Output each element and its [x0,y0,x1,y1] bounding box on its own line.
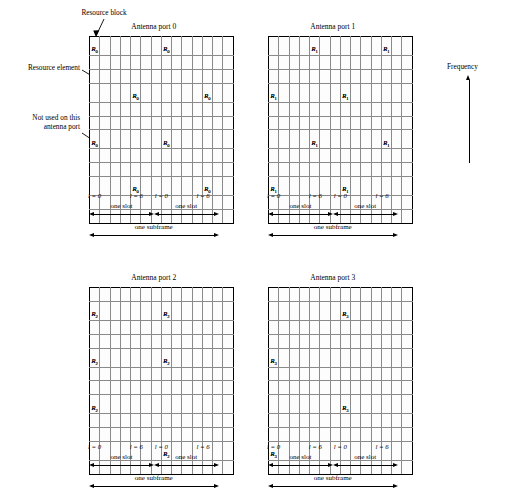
antenna-port-1-subframe-arrowhead-right-icon [393,233,398,237]
reference-signal-cell: R1 [381,130,391,149]
frequency-arrow-shaft [469,80,470,163]
resource-element-cell [340,367,350,381]
resource-element-cell [289,428,299,442]
resource-element-cell [310,414,320,428]
resource-element-cell [381,149,391,163]
resource-element-cell [141,37,151,56]
resource-element-cell [340,334,350,348]
resource-element-cell [151,56,161,70]
resource-element-cell [361,116,371,130]
resource-element-cell [330,395,340,414]
resource-element-cell [182,381,192,395]
resource-element-cell [213,288,223,302]
antenna-port-0-title: Antenna port 0 [89,22,219,31]
grid-row [90,334,234,348]
resource-element-cell [182,428,192,442]
resource-element-cell [192,209,202,223]
resource-element-cell [320,348,330,367]
resource-element-cell [110,177,120,196]
resource-element-cell [310,460,320,474]
resource-element-cell [223,414,233,428]
resource-element-cell [223,320,233,334]
resource-element-cell [330,56,340,70]
resource-element-cell [299,163,309,177]
resource-element-cell [213,428,223,442]
antenna-port-3-subframe-arrow-shaft [272,486,394,487]
grid-row [90,69,234,83]
resource-element-cell [213,163,223,177]
resource-element-cell [392,367,402,381]
reference-signal-cell: R3 [340,301,350,320]
reference-signal-label: R1 [311,46,317,55]
resource-element-cell [120,367,130,381]
antenna-port-1-l0-slot1: l = 0 [267,192,280,199]
resource-element-cell [289,288,299,302]
resource-element-cell [310,320,320,334]
reference-signal-cell: R1 [381,37,391,56]
resource-element-cell [161,116,171,130]
grid-row [90,460,234,474]
grid-row: R2 [90,395,234,414]
antenna-port-0-subframe-label: one subframe [89,223,219,231]
resource-element-cell [151,163,161,177]
resource-element-cell [192,334,202,348]
grid-row [90,428,234,442]
resource-element-cell [392,130,402,149]
resource-element-cell [310,102,320,116]
resource-element-cell [100,334,110,348]
resource-element-cell [223,83,233,102]
resource-element-cell [330,320,340,334]
resource-element-cell [131,56,141,70]
resource-element-cell [289,414,299,428]
resource-element-cell [202,288,212,302]
resource-element-cell [392,149,402,163]
resource-element-cell [289,37,299,56]
resource-element-cell [141,130,151,149]
resource-element-cell [100,209,110,223]
resource-element-cell [269,414,279,428]
unused-cell [340,130,350,149]
resource-element-cell [182,163,192,177]
resource-element-cell [279,428,289,442]
resource-element-cell [371,381,381,395]
resource-element-cell [161,163,171,177]
resource-element-cell [161,334,171,348]
resource-element-cell [192,395,202,414]
resource-element-cell [402,209,412,223]
resource-element-cell [371,209,381,223]
resource-element-cell [299,56,309,70]
resource-element-cell [110,414,120,428]
resource-element-cell [320,102,330,116]
resource-element-cell [182,460,192,474]
resource-element-cell [361,367,371,381]
unused-cell [269,37,279,56]
resource-element-cell [161,320,171,334]
resource-element-cell [120,37,130,56]
resource-element-cell [279,460,289,474]
resource-element-cell [141,414,151,428]
resource-element-cell [120,288,130,302]
resource-element-cell [202,69,212,83]
resource-element-cell [141,56,151,70]
antenna-port-0-subframe-arrow-shaft [93,235,215,236]
resource-element-cell [161,414,171,428]
resource-element-cell [172,428,182,442]
resource-element-cell [90,414,100,428]
resource-element-cell [320,428,330,442]
resource-element-cell [361,83,371,102]
resource-element-cell [279,301,289,320]
resource-element-cell [392,163,402,177]
resource-element-cell [310,334,320,348]
resource-element-cell [402,395,412,414]
resource-element-cell [392,428,402,442]
resource-element-cell [213,177,223,196]
grid-row [269,56,413,70]
reference-signal-cell: R3 [340,395,350,414]
resource-element-cell [182,209,192,223]
resource-element-cell [182,69,192,83]
resource-element-cell [361,102,371,116]
resource-element-cell [100,288,110,302]
resource-element-cell [310,288,320,302]
antenna-port-1-subframe-label: one subframe [268,223,398,231]
reference-signal-label: R2 [163,358,169,367]
